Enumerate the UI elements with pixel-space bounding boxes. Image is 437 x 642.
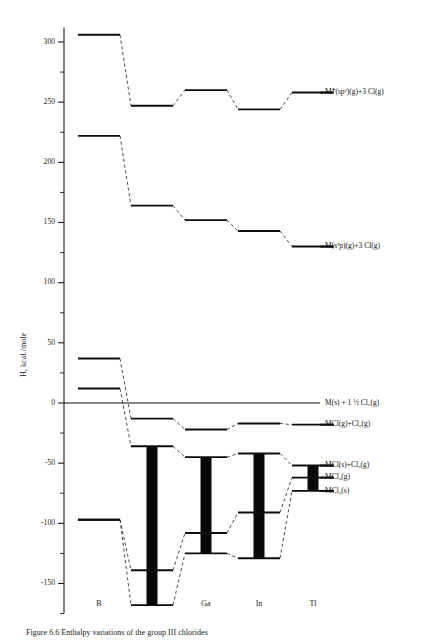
series-label-2: M(s) + 1 ½ Cl₂(g) bbox=[325, 398, 380, 407]
connector-0-1 bbox=[173, 90, 185, 106]
x-axis-tick-label-tl: Tl bbox=[309, 599, 317, 608]
connector-3-3 bbox=[280, 423, 292, 424]
y-axis-tick-label: -150 bbox=[41, 578, 55, 587]
y-axis-tick-label: -100 bbox=[41, 518, 55, 527]
connector-6-2 bbox=[227, 553, 238, 558]
connector-1-1 bbox=[173, 206, 185, 220]
y-axis-tick-label: 50 bbox=[47, 338, 55, 347]
connector-4-2 bbox=[227, 454, 238, 458]
y-axis-title: H, kcal./mole bbox=[19, 332, 28, 377]
series-label-4: MCl(s)+Cl₂(g) bbox=[325, 460, 370, 469]
y-axis-tick-label: -50 bbox=[45, 458, 55, 467]
enthalpy-bar-in bbox=[254, 454, 265, 559]
connector-1-3 bbox=[280, 231, 292, 247]
connector-4-0 bbox=[120, 389, 131, 447]
y-axis-tick-label: 300 bbox=[44, 37, 56, 46]
connector-5-2 bbox=[227, 513, 238, 533]
enthalpy-level-chart: 300250200150100500-50-100-150H, kcal./mo… bbox=[0, 0, 437, 642]
figure-caption: Figure 6.6 Enthalpy variations of the gr… bbox=[26, 627, 426, 638]
connector-4-1 bbox=[173, 446, 185, 457]
connector-3-0 bbox=[120, 358, 131, 418]
y-axis-tick-label: 0 bbox=[51, 398, 55, 407]
enthalpy-bar-ga bbox=[201, 457, 212, 553]
x-axis-tick-label-b: B bbox=[96, 599, 101, 608]
connector-0-2 bbox=[227, 90, 238, 109]
connector-1-0 bbox=[120, 136, 131, 206]
chart-canvas: 300250200150100500-50-100-150H, kcal./mo… bbox=[0, 0, 437, 642]
series-label-1: M(s²p)(g)+3 Cl(g) bbox=[325, 241, 381, 250]
series-label-3: MCl(g)+Cl₂(g) bbox=[325, 419, 371, 428]
x-axis-tick-label-in: In bbox=[256, 599, 263, 608]
series-label-6: MCl₃(s) bbox=[325, 486, 350, 495]
connector-3-1 bbox=[173, 419, 185, 430]
enthalpy-bar-al bbox=[147, 446, 158, 605]
connector-4-3 bbox=[280, 454, 292, 466]
y-axis-tick-label: 250 bbox=[44, 97, 56, 106]
connector-0-3 bbox=[280, 93, 292, 110]
connector-1-2 bbox=[227, 220, 238, 231]
connector-0-0 bbox=[120, 35, 131, 106]
connector-5-3 bbox=[280, 478, 292, 513]
y-axis-tick-label: 200 bbox=[44, 157, 56, 166]
connector-6-3 bbox=[280, 491, 292, 558]
y-axis-tick-label: 100 bbox=[44, 277, 56, 286]
x-axis-tick-label-ga: Ga bbox=[201, 599, 211, 608]
y-axis-tick-label: 150 bbox=[44, 217, 56, 226]
connector-5-1 bbox=[173, 533, 185, 570]
series-label-5: MCl₃(g) bbox=[325, 472, 351, 481]
connector-3-2 bbox=[227, 423, 238, 429]
connector-6-1 bbox=[173, 553, 185, 605]
series-label-0: M*(sp²)(g)+3 Cl(g) bbox=[325, 87, 384, 96]
